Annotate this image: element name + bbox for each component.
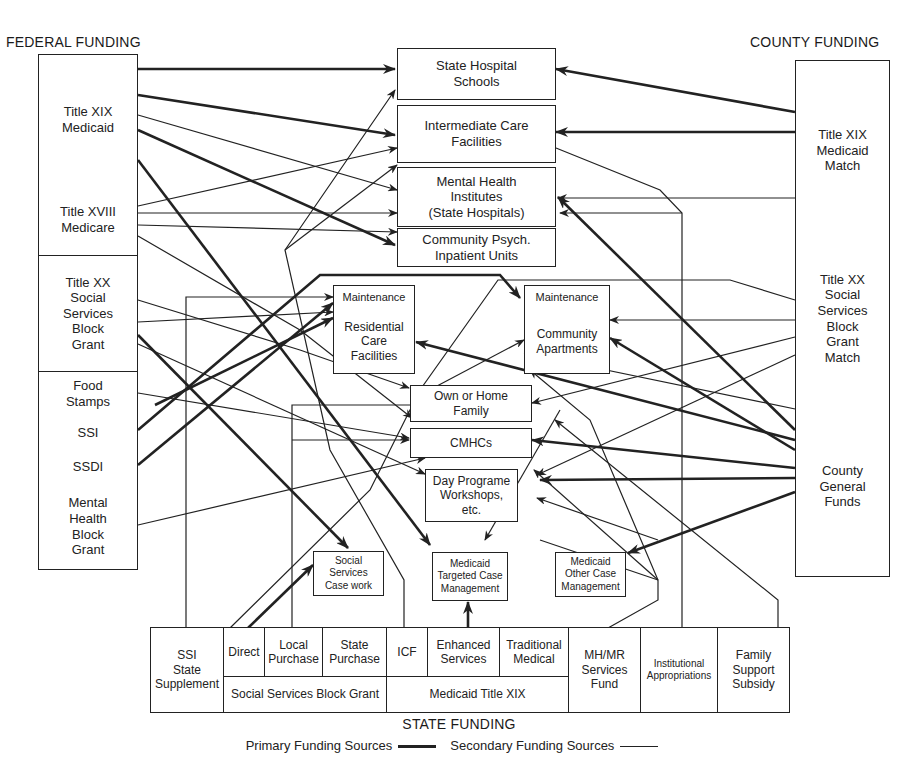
state-state-purchase: State Purchase bbox=[322, 627, 387, 677]
service-own-home-family: Own or Home Family bbox=[410, 385, 532, 422]
state-medicaid-group: Medicaid Title XIX bbox=[386, 676, 569, 713]
service-cmhcs: CMHCs bbox=[410, 428, 532, 458]
state-family-support-subsidy: Family Support Subsidy bbox=[717, 627, 790, 713]
county-general-funds-box: County General Funds bbox=[795, 397, 890, 577]
county-funding-heading: COUNTY FUNDING bbox=[750, 34, 879, 50]
service-day-programs: Day Programe Workshops, etc. bbox=[425, 469, 518, 522]
state-icf: ICF bbox=[386, 627, 428, 677]
federal-medicaid-box: Title XIX Medicaid bbox=[38, 54, 138, 185]
federal-ssi-box: SSI bbox=[38, 416, 138, 450]
service-apt-maintenance: Maintenance bbox=[524, 285, 610, 311]
federal-medicare-box: Title XVIII Medicare bbox=[38, 184, 138, 256]
service-mental-health-institutes: Mental Health Institutes (State Hospital… bbox=[397, 167, 556, 227]
service-state-hospital-schools: State Hospital Schools bbox=[397, 48, 556, 100]
federal-ssbg-box: Title XX Social Services Block Grant bbox=[38, 256, 138, 372]
federal-mhbg-box: Mental Health Block Grant bbox=[38, 484, 138, 570]
county-medicaid-match-box: Title XIX Medicaid Match bbox=[795, 60, 890, 241]
county-ssbg-match-box: Title XX Social Services Block Grant Mat… bbox=[795, 240, 890, 398]
legend-primary-label: Primary Funding Sources bbox=[246, 738, 393, 753]
federal-funding-heading: FEDERAL FUNDING bbox=[6, 34, 141, 50]
service-medicaid-targeted-case-mgmt: Medicaid Targeted Case Management bbox=[432, 552, 508, 601]
state-traditional-medical: Traditional Medical bbox=[499, 627, 569, 677]
state-mhmr-services-fund: MH/MR Services Fund bbox=[568, 627, 641, 713]
state-funding-heading: STATE FUNDING bbox=[0, 716, 918, 732]
service-community-psych-inpatient: Community Psych. Inpatient Units bbox=[397, 228, 556, 267]
legend: Primary Funding SourcesSecondary Funding… bbox=[0, 738, 918, 753]
federal-ssdi-box: SSDI bbox=[38, 449, 138, 485]
service-ss-casework: Social Services Case work bbox=[313, 551, 384, 596]
state-institutional-appropriations: Institutional Appropriations bbox=[640, 627, 718, 713]
service-residential-care-facilities: Residential Care Facilities bbox=[333, 310, 415, 374]
state-direct: Direct bbox=[223, 627, 265, 677]
service-community-apartments: Community Apartments bbox=[524, 310, 610, 374]
federal-food-stamps-box: Food Stamps bbox=[38, 372, 138, 417]
state-ssi-supplement: SSI State Supplement bbox=[150, 627, 224, 713]
service-medicaid-other-case-mgmt: Medicaid Other Case Management bbox=[555, 552, 626, 597]
primary-line-swatch-icon bbox=[398, 745, 436, 748]
state-ssbg-group: Social Services Block Grant bbox=[223, 676, 387, 713]
state-enhanced-services: Enhanced Services bbox=[427, 627, 500, 677]
service-rcf-maintenance: Maintenance bbox=[333, 285, 415, 311]
secondary-line-swatch-icon bbox=[620, 746, 658, 747]
state-local-purchase: Local Purchase bbox=[264, 627, 323, 677]
legend-secondary-label: Secondary Funding Sources bbox=[450, 738, 614, 753]
service-intermediate-care-facilities: Intermediate Care Facilities bbox=[397, 105, 556, 163]
